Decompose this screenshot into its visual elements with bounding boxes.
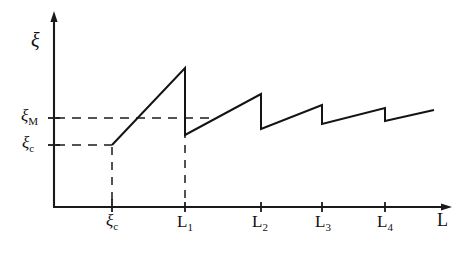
x-tick-label-l3-base: L bbox=[315, 212, 325, 231]
x-tick-label-l2: L2 bbox=[240, 213, 280, 233]
reference-lines-group bbox=[56, 70, 212, 205]
x-tick-label-l4-base: L bbox=[377, 212, 387, 231]
y-axis-title-text: ξ bbox=[31, 29, 40, 51]
y-tick-label-xi-m-sub: M bbox=[28, 115, 38, 127]
y-tick-label-xi-c-sub: c bbox=[29, 142, 34, 154]
y-axis-arrow-icon bbox=[50, 11, 57, 22]
x-axis-title-text: L bbox=[437, 210, 448, 230]
data-curve-group bbox=[112, 68, 434, 145]
x-tick-label-xi-c: ξc bbox=[92, 212, 132, 232]
x-tick-label-l2-sub: 2 bbox=[262, 221, 268, 233]
x-tick-label-l2-base: L bbox=[252, 212, 262, 231]
x-tick-label-l1-sub: 1 bbox=[187, 221, 193, 233]
y-tick-label-xi-m: ξM bbox=[21, 107, 38, 127]
x-tick-label-l3-sub: 3 bbox=[325, 221, 331, 233]
x-tick-label-xi-c-sub: c bbox=[113, 220, 118, 232]
x-axis-title: L bbox=[437, 211, 448, 229]
x-tick-label-l4: L4 bbox=[365, 213, 405, 233]
x-axis-ticks bbox=[112, 199, 385, 212]
x-tick-label-l4-sub: 4 bbox=[387, 221, 393, 233]
y-tick-label-xi-c: ξc bbox=[22, 134, 34, 154]
y-axis-group bbox=[50, 11, 57, 207]
x-tick-label-l1: L1 bbox=[165, 213, 205, 233]
x-axis-group bbox=[54, 203, 452, 210]
y-axis-title: ξ bbox=[31, 30, 40, 50]
x-tick-label-l1-base: L bbox=[177, 212, 187, 231]
figure-canvas: ξ ξM ξc ξc L1 L2 L3 L4 L bbox=[0, 0, 475, 253]
sawtooth-curve bbox=[112, 68, 434, 145]
x-tick-label-l3: L3 bbox=[303, 213, 343, 233]
